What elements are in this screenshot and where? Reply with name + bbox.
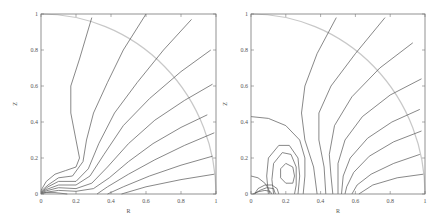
y-axis-label: Z: [222, 102, 228, 106]
x-tick-label: 1: [215, 198, 218, 204]
contour-line: [41, 14, 146, 191]
contour-line: [338, 79, 422, 194]
y-tick-label: 0.2: [31, 155, 39, 161]
contour-line: [342, 109, 420, 194]
left-contour-plot: 00.20.40.60.8100.20.40.60.81RZ: [12, 11, 218, 214]
y-tick-label: 0: [35, 191, 38, 197]
contour-line: [41, 50, 211, 193]
contour-line: [302, 18, 337, 194]
x-tick-label: 0.8: [177, 198, 185, 204]
contour-line: [319, 18, 385, 194]
figure: 00.20.40.60.8100.20.40.60.81RZ 00.20.40.…: [0, 0, 438, 218]
x-axis-label: R: [336, 208, 340, 214]
plot-frame: [41, 14, 216, 194]
x-tick-label: 0: [250, 198, 253, 204]
y-tick-label: 0.2: [241, 155, 249, 161]
contour-line: [345, 131, 422, 194]
x-tick-label: 0.2: [282, 198, 290, 204]
x-tick-label: 0.6: [142, 198, 150, 204]
boundary-arc: [41, 14, 216, 194]
contour-line: [359, 174, 423, 194]
contour-line: [108, 156, 213, 194]
y-axis-label: Z: [12, 102, 18, 106]
contour-line: [281, 163, 295, 183]
x-tick-label: 0.4: [107, 198, 115, 204]
y-tick-label: 1: [35, 11, 38, 17]
x-tick-label: 0: [40, 198, 43, 204]
x-tick-label: 0.4: [317, 198, 325, 204]
contour-line: [41, 18, 92, 191]
contour-line: [251, 117, 305, 194]
y-tick-label: 0.6: [31, 83, 39, 89]
y-tick-label: 0: [245, 191, 248, 197]
contour-line: [41, 19, 192, 192]
y-tick-label: 0.4: [31, 119, 39, 125]
x-tick-label: 0.8: [386, 198, 394, 204]
x-tick-label: 1: [424, 198, 427, 204]
y-tick-label: 0.8: [31, 47, 39, 53]
contour-line: [352, 154, 420, 194]
y-tick-label: 0.6: [241, 83, 249, 89]
y-tick-label: 0.8: [241, 47, 249, 53]
right-contour-plot: 00.20.40.60.8100.20.40.60.81RZ: [222, 11, 427, 214]
x-tick-label: 0.6: [352, 198, 360, 204]
x-tick-label: 0.2: [72, 198, 80, 204]
y-tick-label: 1: [245, 11, 248, 17]
contour-line: [122, 174, 215, 194]
x-axis-label: R: [126, 208, 130, 214]
y-tick-label: 0.4: [241, 119, 249, 125]
